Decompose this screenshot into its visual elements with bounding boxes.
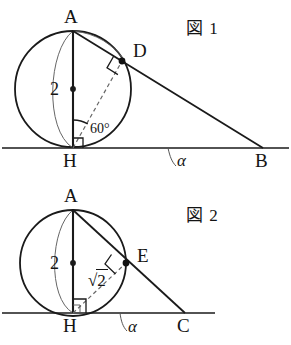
- figure-2-group: [2, 210, 215, 331]
- figure-1-angle-arc-60: [73, 120, 88, 124]
- figure-1-label-H: H: [63, 151, 77, 170]
- figure-1-alpha-label: α: [177, 152, 186, 169]
- figure-1-label-D: D: [133, 41, 147, 60]
- figure-2-tag: 図 2: [186, 201, 219, 226]
- figure-2-point-dot-E: [123, 260, 130, 267]
- sqrt-radicand: 2: [96, 269, 108, 290]
- figure-2-angle-arc-alpha: [120, 313, 127, 331]
- figure-1-label-B: B: [255, 151, 268, 170]
- figure-1-tag: 図 1: [186, 14, 219, 39]
- figure-2-diameter-label: 2: [50, 254, 59, 272]
- figure-2-sqrt-label: √2: [88, 271, 108, 291]
- figure-1-point-dot-D: [119, 58, 126, 65]
- figure-2-label-C: C: [177, 316, 190, 335]
- figure-2-label-E: E: [137, 246, 149, 265]
- figure-1-label-A: A: [64, 7, 78, 26]
- figure-1-center-dot: [70, 86, 76, 92]
- figure-2-center-dot: [70, 260, 76, 266]
- figure-2-label-A: A: [64, 186, 78, 205]
- geometry-figure-canvas: 図 1 A H D B 2 60° α 図 2 A H E C 2 √2 α: [0, 0, 291, 345]
- figure-1-diameter-label: 2: [50, 80, 59, 98]
- figure-1-angle-arc-alpha: [168, 148, 176, 166]
- figure-1-angle-label-60: 60°: [90, 122, 110, 136]
- figure-2-alpha-label: α: [128, 318, 137, 335]
- figure-2-label-H: H: [63, 316, 77, 335]
